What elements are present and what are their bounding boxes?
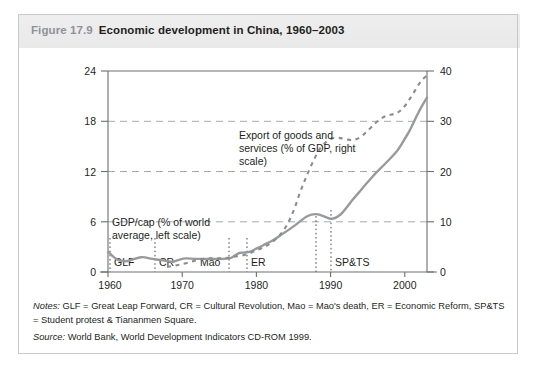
left-axis-tick-labels: 24 18 12 6 0 [84, 65, 96, 278]
notes-text-line: Notes: GLF = Great Leap Forward, CR = Cu… [33, 300, 511, 327]
right-tick-label-0: 0 [440, 266, 446, 278]
right-axis-ticks [427, 71, 434, 272]
x-tick-label-1980: 1980 [245, 279, 269, 291]
x-tick-label-1990: 1990 [319, 279, 343, 291]
left-tick-label-0: 0 [90, 266, 96, 278]
left-tick-label-6: 6 [90, 216, 96, 228]
left-axis-ticks [101, 71, 108, 272]
figure-container: Figure 17.9Economic development in China… [0, 0, 537, 386]
left-tick-label-18: 18 [84, 115, 96, 127]
x-tick-label-1970: 1970 [171, 279, 195, 291]
right-tick-label-40: 40 [440, 65, 452, 77]
annotation-gdp-line-2: average, left scale) [112, 229, 201, 241]
right-tick-label-20: 20 [440, 166, 452, 178]
annotation-exports-line-2: services (% of GDP, right [239, 142, 356, 154]
notes-body: GLF = Great Leap Forward, CR = Cultural … [33, 301, 504, 325]
annotation-gdp-per-capita: GDP/cap (% of world average, left scale) [112, 216, 210, 241]
right-axis-tick-labels: 40 30 20 10 0 [440, 65, 452, 278]
source-label: Source: [33, 332, 65, 342]
annotation-gdp-line-1: GDP/cap (% of world [112, 216, 210, 228]
x-tick-label-2000: 2000 [393, 279, 417, 291]
x-axis-ticks [108, 272, 405, 277]
event-label-spts: SP&TS [335, 256, 369, 268]
left-tick-label-24: 24 [84, 65, 96, 77]
notes-label: Notes: [33, 301, 60, 311]
source-body: World Bank, World Development Indicators… [65, 332, 312, 342]
x-tick-label-1960: 1960 [98, 279, 122, 291]
right-tick-label-10: 10 [440, 216, 452, 228]
event-label-er: ER [251, 256, 266, 268]
right-tick-label-30: 30 [440, 115, 452, 127]
left-tick-label-12: 12 [84, 166, 96, 178]
x-axis-tick-labels: 1960 1970 1980 1990 2000 [98, 279, 416, 291]
figure-notes: Notes: GLF = Great Leap Forward, CR = Cu… [33, 300, 511, 345]
annotation-exports-line-3: scale) [239, 155, 267, 167]
source-text-line: Source: World Bank, World Development In… [33, 331, 511, 345]
annotation-exports: Export of goods and services (% of GDP, … [239, 129, 356, 167]
annotation-exports-line-1: Export of goods and [239, 129, 333, 141]
